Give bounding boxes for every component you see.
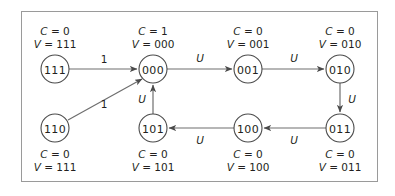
annotation-v-symbol-100: V xyxy=(227,161,234,173)
annotation-v-symbol-000: V xyxy=(132,38,139,50)
annotation-v-value-010: = 010 xyxy=(329,38,361,50)
annotation-c-symbol-111: C xyxy=(40,25,47,37)
node-annotation-000: C = 1V = 000 xyxy=(132,25,175,51)
annotation-c-line-100: C = 0 xyxy=(227,148,270,161)
state-node-000[interactable] xyxy=(139,55,167,83)
node-annotation-010: C = 0V = 010 xyxy=(319,25,362,51)
annotation-c-symbol-100: C xyxy=(233,148,240,160)
annotation-c-line-011: C = 0 xyxy=(319,148,362,161)
edge-label-000-001: U xyxy=(196,52,204,64)
state-node-111[interactable] xyxy=(41,55,69,83)
annotation-v-value-110: = 111 xyxy=(44,161,76,173)
annotation-v-value-111: = 111 xyxy=(44,38,76,50)
annotation-v-symbol-010: V xyxy=(319,38,326,50)
annotation-v-line-101: V = 101 xyxy=(132,161,175,174)
annotation-c-symbol-001: C xyxy=(233,25,240,37)
annotation-v-symbol-101: V xyxy=(132,161,139,173)
annotation-c-line-110: C = 0 xyxy=(34,148,77,161)
annotation-v-line-011: V = 011 xyxy=(319,161,362,174)
annotation-c-symbol-110: C xyxy=(40,148,47,160)
state-node-010[interactable] xyxy=(326,55,354,83)
annotation-v-symbol-111: V xyxy=(34,38,41,50)
edge-label-001-010: U xyxy=(290,52,298,64)
state-node-011[interactable] xyxy=(326,114,354,142)
annotation-c-symbol-011: C xyxy=(325,148,332,160)
annotation-v-line-110: V = 111 xyxy=(34,161,77,174)
node-annotation-001: C = 0V = 001 xyxy=(227,25,270,51)
annotation-v-line-001: V = 001 xyxy=(227,38,270,51)
annotation-v-symbol-001: V xyxy=(227,38,234,50)
state-node-101[interactable] xyxy=(139,114,167,142)
state-node-110[interactable] xyxy=(41,114,69,142)
state-diagram-figure: 11UUUUUU111C = 0V = 111000C = 1V = 00000… xyxy=(0,0,395,196)
annotation-c-value-011: = 0 xyxy=(336,148,355,160)
annotation-c-line-010: C = 0 xyxy=(319,25,362,38)
edge-label-010-011: U xyxy=(348,93,356,105)
annotation-c-line-000: C = 1 xyxy=(132,25,175,38)
annotation-c-line-101: C = 0 xyxy=(132,148,175,161)
edge-label-111-000: 1 xyxy=(101,53,108,65)
state-node-100[interactable] xyxy=(234,114,262,142)
annotation-v-line-111: V = 111 xyxy=(34,38,77,51)
annotation-c-value-100: = 0 xyxy=(244,148,263,160)
annotation-v-value-001: = 001 xyxy=(237,38,269,50)
edge-label-101-000: U xyxy=(138,93,146,105)
node-annotation-111: C = 0V = 111 xyxy=(34,25,77,51)
annotation-v-line-000: V = 000 xyxy=(132,38,175,51)
annotation-c-value-111: = 0 xyxy=(51,25,70,37)
node-annotation-011: C = 0V = 011 xyxy=(319,148,362,174)
edges-group xyxy=(68,69,340,128)
annotation-c-value-101: = 0 xyxy=(149,148,168,160)
annotation-v-value-000: = 000 xyxy=(142,38,174,50)
annotation-c-symbol-000: C xyxy=(138,25,145,37)
annotation-c-symbol-101: C xyxy=(138,148,145,160)
node-annotation-110: C = 0V = 111 xyxy=(34,148,77,174)
annotation-v-line-100: V = 100 xyxy=(227,161,270,174)
state-node-001[interactable] xyxy=(234,55,262,83)
edge-label-100-101: U xyxy=(196,134,204,146)
annotation-c-value-000: = 1 xyxy=(149,25,168,37)
annotation-v-symbol-110: V xyxy=(34,161,41,173)
annotation-v-value-101: = 101 xyxy=(142,161,174,173)
annotation-v-value-011: = 011 xyxy=(329,161,361,173)
annotation-v-line-010: V = 010 xyxy=(319,38,362,51)
annotation-v-value-100: = 100 xyxy=(237,161,269,173)
annotation-c-line-111: C = 0 xyxy=(34,25,77,38)
annotation-v-symbol-011: V xyxy=(319,161,326,173)
annotation-c-line-001: C = 0 xyxy=(227,25,270,38)
annotation-c-symbol-010: C xyxy=(325,25,332,37)
annotation-c-value-001: = 0 xyxy=(244,25,263,37)
edge-label-011-100: U xyxy=(290,134,298,146)
annotation-c-value-110: = 0 xyxy=(51,148,70,160)
annotation-c-value-010: = 0 xyxy=(336,25,355,37)
nodes-group xyxy=(41,55,354,142)
node-annotation-100: C = 0V = 100 xyxy=(227,148,270,174)
edge-label-110-000: 1 xyxy=(101,98,108,110)
node-annotation-101: C = 0V = 101 xyxy=(132,148,175,174)
